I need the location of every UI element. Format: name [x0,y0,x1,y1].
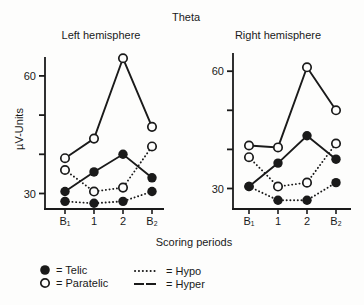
svg-text:60: 60 [24,70,36,82]
svg-text:B₁: B₁ [59,215,70,227]
open-circle-icon [39,277,51,289]
svg-text:B₂: B₂ [330,215,342,227]
filled-circle-icon [39,264,51,276]
right-hemisphere-plot: 3060B₁12B₂ [212,53,351,227]
legend-label-telic: = Telic [56,264,87,276]
left-hemisphere-plot: 3060B₁12B₂ [24,54,164,227]
svg-text:60: 60 [212,65,224,77]
dotted-line-icon [133,268,159,274]
svg-text:1: 1 [275,215,281,227]
svg-text:30: 30 [24,188,36,200]
plots-canvas: 3060B₁12B₂ 3060B₁12B₂ [0,0,364,305]
figure: Theta Left hemisphere Right hemisphere µ… [0,0,364,305]
legend-label-hypo: = Hypo [166,265,201,277]
svg-text:1: 1 [91,215,97,227]
svg-text:2: 2 [304,215,310,227]
legend-item-telic: = Telic [39,264,87,276]
svg-text:B₁: B₁ [243,215,254,227]
svg-text:2: 2 [120,215,126,227]
legend-item-paratelic: = Paratelic [39,277,108,289]
svg-text:B₂: B₂ [146,215,158,227]
legend-label-hyper: = Hyper [166,278,205,290]
legend-label-paratelic: = Paratelic [56,277,108,289]
legend-item-hypo: = Hypo [133,265,201,277]
svg-text:30: 30 [212,183,224,195]
solid-line-icon [133,281,159,287]
legend-item-hyper: = Hyper [133,278,205,290]
